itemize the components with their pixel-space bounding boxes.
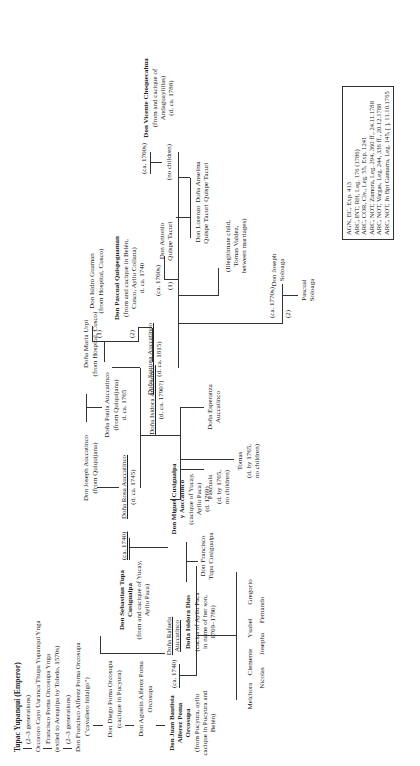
person-pascual-quispeguaman: Don Pascual Quispeguaman [113,228,121,328]
note-juan-bautista: (from Pucyura, ayllu cacique in Pucyura … [193,686,218,760]
line [186,561,198,562]
line [138,328,139,342]
line [43,748,52,749]
line [152,328,153,362]
note-rosa: (d. ca. 1745) [129,442,137,532]
line [129,547,168,548]
note-vicente: (from and cacique of Andaguaylillas) (d.… [151,48,176,148]
note-paula: (from Quiquijana) d. ca. 1765 [112,362,128,448]
children-line [190,178,191,238]
line [180,459,234,460]
sources-box: AGN, EC, Exp. 413 ARC, INT, RH, Leg. 176… [342,86,394,240]
person-esperanza: Doña Esperanza Auccatinco [206,378,222,436]
line [179,675,196,676]
line [125,725,134,726]
child-nicolas: Nicolas [258,660,266,696]
person-anselma: Doña Anselma Quispe Tacuri [194,154,210,210]
note-francisco-poma: (exiled to Arequipa by Toledo, 1570s) [53,646,61,752]
person-tomas: Tomas [236,436,244,486]
genealogy-chart: Tupac Yupanqui (Emperor) (2–3 generation… [0,0,420,766]
marriage-number-santusa-1: (1) [166,282,174,290]
line [156,725,165,726]
person-isidro: Don Isidro Guaman [88,236,96,326]
person-paula: Doña Paula Auccatinco [103,362,111,448]
marriage-number-2: (2) [128,330,136,338]
note-santusa: (d. ca. 1815) [155,304,163,414]
line [100,636,101,654]
person-francisco-poma: Francisco Poma Orcosupa Ynga [44,654,52,744]
child-josepha: Josepha [258,626,266,662]
note-joseph-auccatinco: (from Quiquijana) [91,418,99,518]
root-tupac-yupanqui: Tupac Yupanqui (Emperor) [14,662,22,752]
line [178,295,218,296]
note-sebastian: (from and cacique of Yucay, Ayllu Paca) [135,548,151,652]
child-gregorio: Gregorio [246,574,254,610]
children-line [180,408,181,500]
line [23,748,32,749]
note-isidro: (from Hospital, Cusco) [97,236,105,326]
children-line [236,572,237,700]
line [164,279,178,280]
note-pascuala: (d. by 1765, no children) [215,462,231,512]
line [140,368,141,488]
line [180,407,204,408]
person-diego: Don Diego Poma Orcosupa [106,644,114,754]
note-illegitimate-child: (Illegitimate child, Tomas Valdez, betwe… [224,206,249,286]
person-pascuala: Pascuala [206,462,214,512]
note-pascual-quispeguaman: (from and cacique in Belén, Cusco, Ayllu… [122,228,147,328]
line [93,725,103,726]
person-isidora-dias: Doña Isidora Dias [184,582,192,662]
marriage-date-juan-rafaela: (ca. 1740) [170,660,178,688]
child-melchora: Melchora [246,678,254,714]
note-francisco-alferez: ("cavallero hidalgo") [83,677,91,736]
note-isidora-dias: (cacica of Ayllu Paca in name of her son… [193,582,218,662]
line [218,268,219,296]
person-joseph-auccatinco: Don Joseph Auccatinco [82,418,90,518]
person-sebastian: Don Sebastian Tupa Cusigualpa [118,558,134,642]
child-ysabel: Ysabel [246,610,254,646]
line [196,635,236,636]
line [176,217,190,218]
person-orcororo: Orcororo Cayo Uaranca Thupa Yupanqui Yng… [34,620,42,752]
generations-note-2: (2–3 generations) [64,695,72,744]
marriage-number-santusa-2: (2) [284,310,292,318]
person-juan-bautista: Don Juan Bautista Alferez Poma Orcosupa [168,688,193,758]
person-vicente: Don Vicente Choquecahua [142,48,150,148]
line [92,326,93,342]
marriage-date-sebastian-rosa: (ca. 1740) [120,532,128,560]
person-pascual-soloaga: Pascual Soloaga [300,268,316,312]
note-diego: (cacique in Pucyura) [115,644,123,754]
line [97,487,119,488]
person-rafaela: Doña Rafaela Auccatinco [165,610,181,662]
generations-note-1: (2–3 generations) [24,695,32,744]
marriage-line [150,152,151,174]
person-joseph-soloaga: Don Joseph Soloaga [270,248,286,292]
marriage-line [104,342,105,362]
person-agustin-2: Orcosupa [146,644,154,754]
line [178,152,179,368]
person-rosa: Doña Rosa Auccatinco [120,442,128,532]
line [170,499,180,500]
person-agustin: Don Agustin Alferez Poma [137,644,145,754]
line [112,367,140,368]
marriage-line [86,394,87,422]
person-francisco-alferez: Don Francisco Alferez Poma Orcosupa [74,642,82,752]
child-fernando: Fernando [258,592,266,628]
line [180,469,204,470]
line [92,341,138,342]
line [150,162,162,163]
note-tomas: (d. by 1765, no children) [245,436,261,486]
marriage-line [129,538,130,560]
line [63,748,72,749]
person-antonio: Don Antonio Quispe Tacuri [158,212,174,270]
child-clemente: Clemente [246,644,254,680]
line [282,295,298,296]
line [178,177,190,178]
line [86,407,102,408]
marriage-number-1: (1) [95,330,103,338]
marriage-line [186,542,187,582]
line [100,653,165,654]
line [178,323,282,324]
marriage-line [179,664,180,688]
